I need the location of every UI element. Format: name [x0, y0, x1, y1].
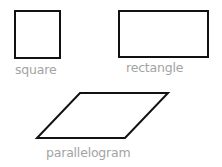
rectangle-shape: [119, 11, 208, 57]
shapes-diagram: [0, 0, 222, 167]
rectangle-label: rectangle: [126, 62, 183, 75]
parallelogram-shape: [37, 93, 168, 138]
square-shape: [15, 11, 60, 58]
square-label: square: [15, 64, 56, 77]
parallelogram-label: parallelogram: [46, 147, 130, 160]
